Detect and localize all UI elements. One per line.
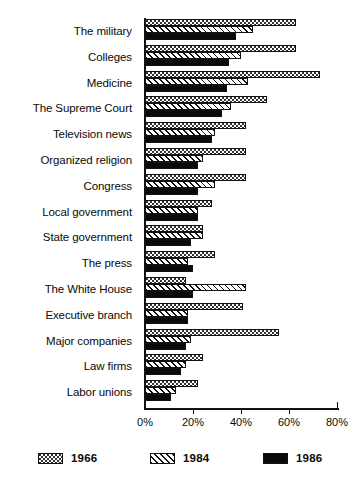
category-label: Law firms bbox=[84, 353, 132, 379]
x-axis: 0%20%40%60%80% bbox=[145, 408, 364, 438]
x-axis-tick-label: 20% bbox=[182, 416, 204, 428]
category-label: Colleges bbox=[88, 44, 132, 70]
bar-1966 bbox=[145, 71, 320, 78]
legend-item-1986: 1986 bbox=[263, 452, 322, 464]
bar-1966 bbox=[145, 200, 212, 207]
category-label: Labor unions bbox=[67, 379, 132, 405]
bar-1984 bbox=[145, 103, 231, 110]
bar-1984 bbox=[145, 181, 215, 188]
bar-1986 bbox=[145, 394, 171, 401]
bar-1986 bbox=[145, 368, 181, 375]
bar-1986 bbox=[145, 317, 188, 324]
bar-1984 bbox=[145, 258, 188, 265]
category-label: The White House bbox=[45, 276, 132, 302]
bar-1966 bbox=[145, 354, 203, 361]
bar-group bbox=[145, 173, 364, 199]
bar-1984 bbox=[145, 284, 246, 291]
bar-1966 bbox=[145, 19, 296, 26]
bar-1984 bbox=[145, 52, 241, 59]
hatched-swatch bbox=[150, 453, 175, 464]
bar-1986 bbox=[145, 162, 198, 169]
bar-1966 bbox=[145, 251, 215, 258]
bar-group bbox=[145, 224, 364, 250]
bar-1986 bbox=[145, 265, 193, 272]
bar-1984 bbox=[145, 26, 253, 33]
x-axis-tick bbox=[241, 408, 242, 414]
legend-item-1966: 1966 bbox=[38, 452, 97, 464]
category-label: Executive branch bbox=[45, 302, 132, 328]
bar-chart: The militaryCollegesMedicineThe Supreme … bbox=[0, 0, 364, 495]
bar-group bbox=[145, 147, 364, 173]
bar-1984 bbox=[145, 361, 186, 368]
category-label: Congress bbox=[84, 173, 132, 199]
dotted-swatch bbox=[38, 453, 63, 464]
bar-group bbox=[145, 44, 364, 70]
x-axis-tick bbox=[193, 408, 194, 414]
bar-1984 bbox=[145, 310, 188, 317]
bar-1984 bbox=[145, 207, 198, 214]
bar-1966 bbox=[145, 380, 198, 387]
bar-1986 bbox=[145, 33, 236, 40]
bar-1966 bbox=[145, 277, 186, 284]
legend-label: 1986 bbox=[296, 452, 322, 464]
category-label: Television news bbox=[53, 121, 132, 147]
category-label: Major companies bbox=[46, 328, 132, 354]
bar-group bbox=[145, 302, 364, 328]
bar-group bbox=[145, 70, 364, 96]
x-axis-tick-label: 80% bbox=[326, 416, 348, 428]
bar-1966 bbox=[145, 96, 267, 103]
bar-1986 bbox=[145, 188, 198, 195]
legend-item-1984: 1984 bbox=[150, 452, 209, 464]
bar-1984 bbox=[145, 387, 176, 394]
category-label: The press bbox=[82, 250, 132, 276]
bar-group bbox=[145, 121, 364, 147]
bar-group bbox=[145, 328, 364, 354]
x-axis-tick-label: 60% bbox=[278, 416, 300, 428]
bar-group bbox=[145, 199, 364, 225]
legend-label: 1966 bbox=[71, 452, 97, 464]
x-axis-tick bbox=[289, 408, 290, 414]
bar-1966 bbox=[145, 174, 246, 181]
bar-1986 bbox=[145, 239, 191, 246]
bar-1986 bbox=[145, 136, 212, 143]
bar-1986 bbox=[145, 343, 186, 350]
bar-1966 bbox=[145, 45, 296, 52]
category-label: The Supreme Court bbox=[33, 95, 132, 121]
x-axis-tick bbox=[145, 402, 146, 409]
bar-1966 bbox=[145, 225, 203, 232]
bar-1984 bbox=[145, 78, 248, 85]
category-label: Organized religion bbox=[40, 147, 132, 173]
bar-1986 bbox=[145, 59, 229, 66]
chart-legend: 196619841986 bbox=[0, 452, 364, 480]
bar-group bbox=[145, 18, 364, 44]
bar-1984 bbox=[145, 336, 191, 343]
x-axis-tick bbox=[337, 402, 338, 409]
x-axis-tick-label: 40% bbox=[230, 416, 252, 428]
bar-1966 bbox=[145, 148, 246, 155]
bar-group bbox=[145, 379, 364, 405]
x-axis-tick-label: 0% bbox=[137, 416, 153, 428]
plot-area: The militaryCollegesMedicineThe Supreme … bbox=[0, 18, 364, 410]
bar-group bbox=[145, 95, 364, 121]
bar-1966 bbox=[145, 303, 243, 310]
category-label: State government bbox=[43, 224, 132, 250]
bars-area bbox=[145, 18, 364, 408]
bar-1984 bbox=[145, 129, 215, 136]
bar-1986 bbox=[145, 214, 198, 221]
category-label: The military bbox=[74, 18, 132, 44]
category-label: Medicine bbox=[87, 70, 132, 96]
category-axis-labels: The militaryCollegesMedicineThe Supreme … bbox=[0, 18, 138, 408]
bar-1966 bbox=[145, 329, 279, 336]
bar-1986 bbox=[145, 110, 222, 117]
legend-label: 1984 bbox=[183, 452, 209, 464]
bar-1986 bbox=[145, 85, 227, 92]
bar-1984 bbox=[145, 155, 203, 162]
solid-swatch bbox=[263, 453, 288, 464]
bar-group bbox=[145, 250, 364, 276]
category-label: Local government bbox=[42, 199, 132, 225]
bar-1966 bbox=[145, 122, 246, 129]
bar-1986 bbox=[145, 291, 193, 298]
bar-group bbox=[145, 353, 364, 379]
bar-group bbox=[145, 276, 364, 302]
bar-1984 bbox=[145, 232, 203, 239]
